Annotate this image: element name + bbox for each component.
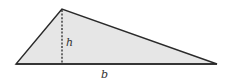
triangle-shape — [16, 9, 217, 64]
triangle-figure: h b — [0, 0, 232, 81]
triangle-diagram: h b — [0, 0, 232, 81]
height-label: h — [66, 36, 73, 49]
base-label: b — [101, 68, 108, 81]
